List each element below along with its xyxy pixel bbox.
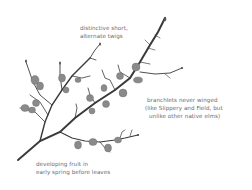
annotation-branchlets-line-2: (like Slippery and Field, but bbox=[145, 104, 223, 112]
annotation-fruit: developing fruit in early spring before … bbox=[36, 160, 110, 176]
annotation-fruit-line-1: developing fruit in bbox=[36, 160, 110, 168]
annotation-twigs: distinctive short, alternate twigs bbox=[80, 24, 128, 40]
annotation-twigs-line-1: distinctive short, bbox=[80, 24, 128, 32]
annotation-branchlets: branchlets never winged (like Slippery a… bbox=[145, 96, 223, 120]
annotation-branchlets-line-3: unlike other native elms) bbox=[145, 112, 223, 120]
annotation-twigs-line-2: alternate twigs bbox=[80, 32, 128, 40]
annotation-fruit-line-2: early spring before leaves bbox=[36, 168, 110, 176]
annotation-branchlets-line-1: branchlets never winged bbox=[145, 96, 223, 104]
